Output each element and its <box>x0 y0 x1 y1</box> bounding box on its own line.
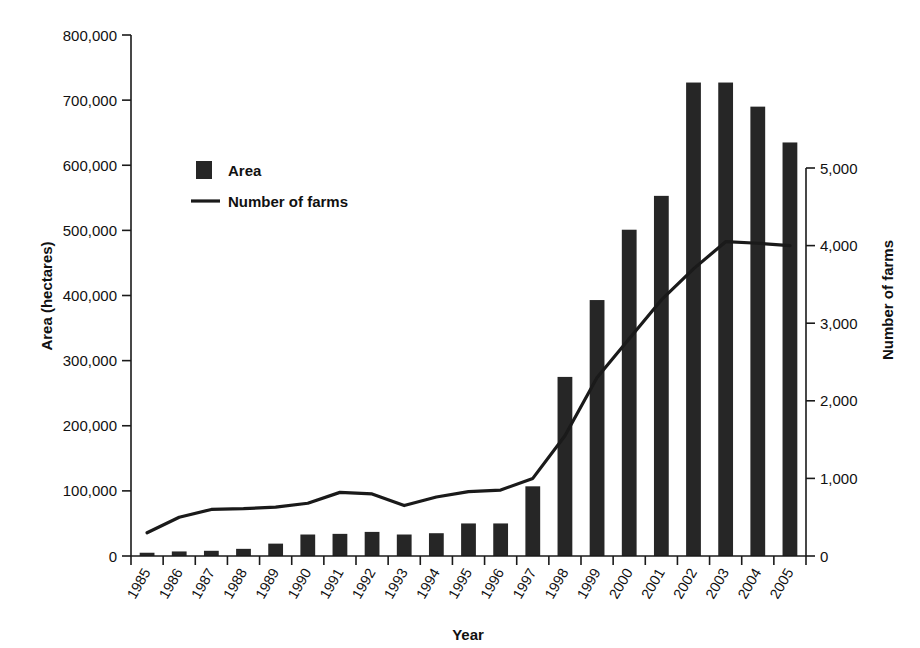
bar <box>461 523 476 556</box>
x-tick-label: 1994 <box>413 566 443 602</box>
x-axis: 1985198619871988198919901991199219931994… <box>124 556 806 601</box>
x-tick-label: 2005 <box>767 566 797 602</box>
x-axis-ticks <box>131 556 806 565</box>
x-tick-label: 1996 <box>477 566 507 602</box>
right-tick-label: 2,000 <box>820 392 858 409</box>
bar <box>333 534 348 556</box>
x-tick-label: 2004 <box>734 566 764 602</box>
y-axis-title: Area (hectares) <box>38 241 55 350</box>
right-tick-label: 3,000 <box>820 315 858 332</box>
x-tick-label: 1995 <box>445 566 475 602</box>
x-tick-label: 1986 <box>156 566 186 602</box>
x-tick-label: 1997 <box>509 566 539 602</box>
bar <box>236 549 251 556</box>
chart-legend: Area Number of farms <box>191 161 348 210</box>
dual-axis-bar-line-chart: 0100,000200,000300,000400,000500,000600,… <box>0 0 920 648</box>
left-tick-label: 0 <box>109 548 117 565</box>
x-tick-label: 1985 <box>124 566 154 602</box>
x-tick-label: 1987 <box>188 566 218 602</box>
right-tick-label: 0 <box>820 548 828 565</box>
x-tick-label: 2000 <box>606 566 636 602</box>
left-tick-label: 700,000 <box>63 92 117 109</box>
bar <box>397 535 412 556</box>
bar <box>750 107 765 556</box>
left-tick-label: 400,000 <box>63 287 117 304</box>
x-tick-label: 2002 <box>670 566 700 602</box>
right-tick-label: 5,000 <box>820 160 858 177</box>
legend-swatch-area <box>196 161 212 179</box>
x-axis-tick-labels: 1985198619871988198919901991199219931994… <box>124 566 797 602</box>
left-tick-label: 500,000 <box>63 222 117 239</box>
left-tick-label: 100,000 <box>63 482 117 499</box>
x-tick-label: 1990 <box>284 566 314 602</box>
x-tick-label: 1991 <box>317 566 347 602</box>
left-tick-label: 800,000 <box>63 27 117 44</box>
bar <box>686 83 701 556</box>
bar <box>365 532 380 556</box>
y2-axis-title: Number of farms <box>879 240 896 360</box>
bar <box>525 486 540 556</box>
x-axis-title: Year <box>452 626 484 643</box>
left-tick-label: 600,000 <box>63 157 117 174</box>
left-axis: 0100,000200,000300,000400,000500,000600,… <box>63 27 131 565</box>
bar <box>783 142 798 556</box>
bar <box>590 300 605 556</box>
left-axis-ticks: 0100,000200,000300,000400,000500,000600,… <box>63 27 131 565</box>
x-tick-label: 1992 <box>349 566 379 602</box>
bar <box>429 533 444 556</box>
bar <box>300 535 315 556</box>
x-tick-label: 1999 <box>574 566 604 602</box>
right-tick-label: 4,000 <box>820 237 858 254</box>
x-tick-label: 2003 <box>702 566 732 602</box>
chart-figure: 0100,000200,000300,000400,000500,000600,… <box>0 0 920 648</box>
left-tick-label: 300,000 <box>63 352 117 369</box>
bar <box>493 523 508 556</box>
bar <box>718 83 733 556</box>
right-axis: 01,0002,0003,0004,0005,000 <box>806 160 858 565</box>
bar <box>268 544 283 556</box>
bar <box>622 230 637 556</box>
bar-series-area <box>140 83 798 556</box>
bar <box>558 377 573 556</box>
right-axis-ticks: 01,0002,0003,0004,0005,000 <box>806 160 858 565</box>
x-tick-label: 1989 <box>252 566 282 602</box>
legend-label-number-of-farms: Number of farms <box>228 193 348 210</box>
right-tick-label: 1,000 <box>820 470 858 487</box>
bar <box>654 196 669 556</box>
x-tick-label: 2001 <box>638 566 668 602</box>
x-tick-label: 1993 <box>381 566 411 602</box>
left-tick-label: 200,000 <box>63 417 117 434</box>
x-tick-label: 1998 <box>542 566 572 602</box>
legend-label-area: Area <box>228 162 262 179</box>
x-tick-label: 1988 <box>220 566 250 602</box>
